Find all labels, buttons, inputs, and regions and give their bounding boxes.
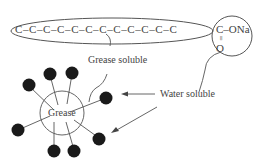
arrow-to-lower-head xyxy=(115,107,157,131)
grease-label: Grease xyxy=(48,107,76,118)
grease-soluble-label: Grease soluble xyxy=(88,54,147,65)
hydrocarbon-chain: C–C–C–C–C–C–C–C–C–C–C–C xyxy=(15,23,177,35)
arrowhead-1 xyxy=(121,92,128,97)
water-soluble-label: Water soluble xyxy=(160,88,215,99)
oxygen-atom: O xyxy=(216,42,224,54)
double-bond: = xyxy=(216,35,226,40)
carboxylate-group: C–ONa xyxy=(216,23,250,35)
arrowhead-2 xyxy=(111,127,119,133)
water-soluble-leader xyxy=(199,52,221,92)
